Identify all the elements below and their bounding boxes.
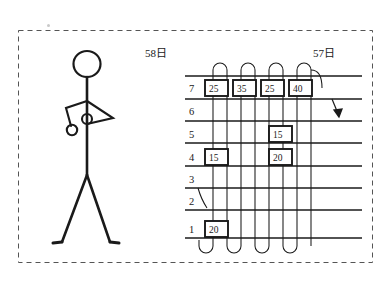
row-label-6: 6: [189, 106, 194, 117]
serpentine-top-arc: [241, 63, 255, 70]
serpentine-top-arc: [269, 63, 283, 70]
down-right-arrow-icon: [332, 99, 342, 117]
row-label-4: 4: [189, 152, 195, 163]
serpentine-bottom-arc: [283, 246, 297, 253]
row-label-7: 7: [189, 83, 194, 94]
row-label-1: 1: [189, 224, 194, 235]
cell-value: 15: [273, 130, 283, 140]
figure-left-leg: [62, 175, 87, 242]
serpentine-bottom-arc: [227, 246, 241, 253]
serpentine-top-arc: [213, 63, 227, 70]
stick-figure: [53, 51, 119, 243]
cell-value: 20: [273, 153, 283, 163]
value-cell[interactable]: 40: [289, 80, 312, 96]
value-cell[interactable]: 15: [205, 149, 228, 165]
row-label-5: 5: [189, 129, 194, 140]
value-cell[interactable]: 35: [233, 80, 256, 96]
cell-value: 25: [209, 84, 219, 94]
cell-value: 20: [209, 225, 219, 235]
serpentine-entry-mark: [198, 188, 207, 208]
value-cell[interactable]: 25: [205, 80, 228, 96]
cell-value: 35: [237, 84, 247, 94]
value-cell[interactable]: 20: [269, 149, 292, 165]
row-label-3: 3: [189, 174, 194, 185]
value-cell[interactable]: 20: [205, 221, 228, 237]
serpentine-bottom-arc: [199, 246, 213, 253]
value-cell[interactable]: 25: [261, 80, 284, 96]
figure-left-foot: [53, 242, 62, 243]
right-header-label: 57日: [313, 47, 335, 59]
cell-value: 25: [265, 84, 275, 94]
serpentine-top-arc: [297, 63, 311, 70]
cell-value: 15: [209, 153, 219, 163]
value-cell[interactable]: 15: [269, 126, 292, 142]
figure-hand: [67, 125, 77, 135]
dashed-border: [19, 31, 373, 263]
cell-value: 40: [293, 84, 303, 94]
diagram-canvas: 58日 57日 7 6 5 4 3 2 1: [0, 0, 388, 287]
figure-head: [74, 51, 101, 77]
serpentine-bottom-arc: [255, 246, 269, 253]
diagram-svg: 58日 57日 7 6 5 4 3 2 1: [0, 0, 388, 287]
figure-right-leg: [87, 175, 110, 242]
row-label-2: 2: [189, 196, 194, 207]
left-header-label: 58日: [145, 47, 167, 59]
figure-right-foot: [110, 242, 119, 243]
